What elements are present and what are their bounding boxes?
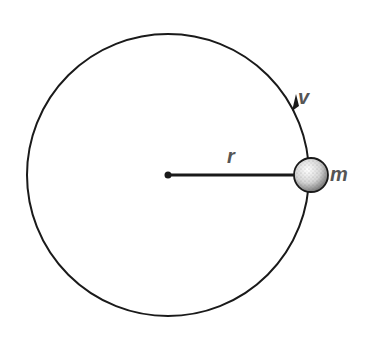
velocity-label: v [298,86,311,108]
mass-ball [294,158,328,192]
circular-motion-diagram: r v m [0,0,374,338]
mass-label: m [330,163,348,185]
center-point [165,172,172,179]
radius-label: r [227,145,236,167]
